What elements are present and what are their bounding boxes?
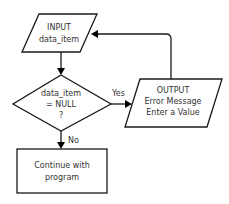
edge-loop-back: [91, 30, 171, 79]
input-parallelogram: [22, 14, 97, 52]
input-node: INPUT data_item: [22, 14, 97, 52]
process-line-1: Continue with: [34, 161, 90, 170]
decision-line-3: ?: [59, 111, 63, 120]
flowchart: INPUT data_item data_item = NULL ? Yes O…: [0, 0, 229, 204]
input-line-2: data_item: [39, 35, 79, 44]
output-line-2: Error Message: [144, 97, 201, 106]
decision-line-1: data_item: [41, 89, 81, 98]
arrow-head-icon: [57, 142, 65, 149]
edge-no: No: [57, 131, 79, 149]
decision-node: data_item = NULL ?: [13, 75, 111, 131]
process-node: Continue with program: [17, 149, 107, 193]
output-line-3: Enter a Value: [146, 108, 200, 117]
edge-yes: Yes: [111, 89, 132, 108]
no-label: No: [68, 136, 79, 145]
arrow-head-icon: [91, 30, 98, 38]
output-node: OUTPUT Error Message Enter a Value: [125, 79, 222, 127]
yes-label: Yes: [111, 89, 125, 98]
arrow-head-icon: [57, 68, 65, 75]
edge-input-to-decision: [57, 52, 65, 75]
process-line-2: program: [45, 173, 79, 182]
process-rectangle: [17, 149, 107, 193]
input-line-1: INPUT: [47, 23, 71, 32]
decision-line-2: = NULL: [46, 100, 77, 109]
output-line-1: OUTPUT: [157, 86, 190, 95]
